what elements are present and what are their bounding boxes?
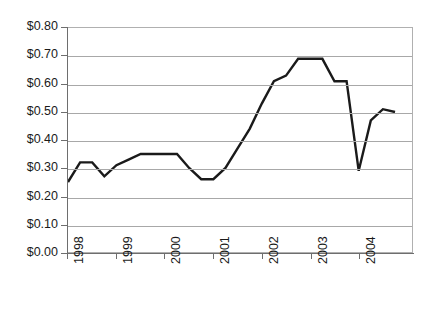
x-axis-tick [213, 253, 214, 259]
y-axis-tick [61, 55, 67, 56]
y-axis-tick-label: $0.00 [1, 246, 58, 259]
y-axis-tick-label: $0.10 [1, 218, 58, 231]
x-axis-line [67, 253, 414, 254]
price-polyline [68, 59, 395, 182]
y-axis-tick [61, 197, 67, 198]
y-axis-tick-label: $0.60 [1, 77, 58, 90]
y-axis-tick [61, 84, 67, 85]
x-axis-tick-label: 2003 [317, 236, 330, 264]
x-axis-tick-label: 2002 [268, 236, 281, 264]
x-axis-tick-label: 1998 [73, 236, 86, 264]
y-axis-line [67, 27, 68, 254]
x-axis-tick-label: 2004 [365, 236, 378, 264]
y-axis-tick-label: $0.80 [1, 20, 58, 33]
gridline [68, 113, 412, 114]
x-axis-tick [67, 253, 68, 259]
x-axis-tick [311, 253, 312, 259]
y-axis-tick-label: $0.20 [1, 190, 58, 203]
y-axis-tick [61, 27, 67, 28]
gridline [68, 56, 412, 57]
y-axis-tick-label: $0.70 [1, 48, 58, 61]
line-chart: $0.00$0.10$0.20$0.30$0.40$0.50$0.60$0.70… [0, 0, 433, 311]
x-axis-tick-label: 1999 [122, 236, 135, 264]
y-axis-tick [61, 112, 67, 113]
series-line-price [68, 28, 412, 252]
gridline [68, 226, 412, 227]
y-axis-tick-label: $0.50 [1, 105, 58, 118]
gridline [68, 141, 412, 142]
y-axis-tick [61, 168, 67, 169]
x-axis-tick [262, 253, 263, 259]
y-axis-tick-label: $0.30 [1, 161, 58, 174]
y-axis-tick-label: $0.40 [1, 133, 58, 146]
x-axis-tick-label: 2001 [219, 236, 232, 264]
x-axis-tick [359, 253, 360, 259]
plot-area [67, 27, 413, 253]
y-axis-tick [61, 140, 67, 141]
gridline [68, 85, 412, 86]
x-axis-tick [116, 253, 117, 259]
gridline [68, 169, 412, 170]
x-axis-tick-label: 2000 [170, 236, 183, 264]
y-axis-tick [61, 225, 67, 226]
x-axis-tick [164, 253, 165, 259]
gridline [68, 198, 412, 199]
y-axis-labels: $0.00$0.10$0.20$0.30$0.40$0.50$0.60$0.70… [0, 0, 58, 311]
